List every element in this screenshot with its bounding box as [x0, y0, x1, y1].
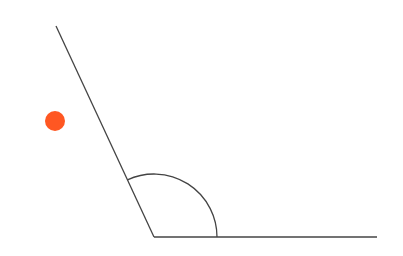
- angle-diagram: [0, 0, 403, 256]
- orange-dot-marker: [45, 111, 65, 131]
- angle-arc: [127, 174, 217, 237]
- angle-ray-slanted: [56, 26, 154, 237]
